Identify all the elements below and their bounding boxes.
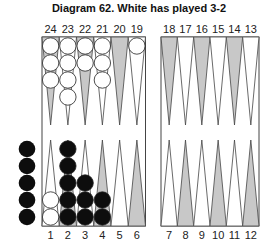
white-checker[interactable] [129,38,145,54]
white-checker[interactable] [94,38,110,54]
point-label-10: 10 [210,229,227,241]
black-checker[interactable] [94,192,110,208]
borne-off-black-checker [19,192,36,209]
black-checker[interactable] [77,175,93,191]
point-label-20: 20 [111,23,128,35]
point-label-3: 3 [77,229,94,241]
point-7[interactable] [161,140,177,226]
point-label-21: 21 [94,23,111,35]
point-9[interactable] [194,140,210,226]
black-checker[interactable] [60,141,76,157]
borne-off-black-checker [19,158,36,175]
borne-off-black-checker [19,175,36,192]
white-checker[interactable] [42,38,58,54]
white-checker[interactable] [42,55,58,71]
point-14[interactable] [226,37,242,125]
black-checker[interactable] [60,158,76,174]
point-label-18: 18 [161,23,178,35]
point-label-16: 16 [193,23,210,35]
point-15[interactable] [210,37,226,125]
point-label-1: 1 [42,229,59,241]
point-5[interactable] [111,140,128,226]
point-12[interactable] [243,140,259,226]
point-label-22: 22 [77,23,94,35]
point-10[interactable] [210,140,226,226]
black-checker[interactable] [60,192,76,208]
point-18[interactable] [161,37,177,125]
point-label-12: 12 [242,229,259,241]
white-checker[interactable] [60,89,76,105]
white-checker[interactable] [94,55,110,71]
point-label-2: 2 [59,229,76,241]
point-label-14: 14 [226,23,243,35]
black-checker[interactable] [60,175,76,191]
black-checker[interactable] [77,209,93,225]
point-20[interactable] [111,37,128,125]
point-label-8: 8 [177,229,194,241]
point-label-17: 17 [177,23,194,35]
borne-off-black-checker [19,141,36,158]
point-label-6: 6 [128,229,145,241]
white-checker[interactable] [60,72,76,88]
black-checker[interactable] [60,209,76,225]
point-label-15: 15 [210,23,227,35]
black-checker[interactable] [94,209,110,225]
point-label-19: 19 [128,23,145,35]
point-label-5: 5 [111,229,128,241]
point-16[interactable] [194,37,210,125]
white-checker[interactable] [94,72,110,88]
white-checker[interactable] [42,72,58,88]
point-label-13: 13 [242,23,259,35]
white-checker[interactable] [42,192,58,208]
point-8[interactable] [177,140,193,226]
white-checker[interactable] [77,55,93,71]
backgammon-board [0,0,278,252]
point-label-23: 23 [59,23,76,35]
white-checker[interactable] [77,38,93,54]
point-label-7: 7 [161,229,178,241]
point-label-11: 11 [226,229,243,241]
point-11[interactable] [226,140,242,226]
point-label-4: 4 [94,229,111,241]
point-6[interactable] [128,140,145,226]
white-checker[interactable] [42,209,58,225]
point-13[interactable] [243,37,259,125]
point-label-24: 24 [42,23,59,35]
black-checker[interactable] [77,192,93,208]
point-17[interactable] [177,37,193,125]
white-checker[interactable] [60,38,76,54]
white-checker[interactable] [60,55,76,71]
borne-off-black-checker [19,209,36,226]
checkers-layer [19,38,145,226]
point-label-9: 9 [193,229,210,241]
